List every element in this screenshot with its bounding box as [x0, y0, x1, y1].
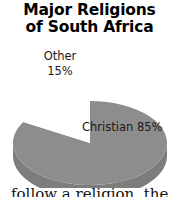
slice-label-christian: Christian 85% — [82, 120, 163, 134]
slice-label-other: Other 15% — [34, 49, 86, 79]
pie-graphic — [0, 38, 179, 188]
clipped-caption: follow a religion, the — [0, 186, 179, 197]
chart-title: Major Religions of South Africa — [0, 2, 179, 36]
chart-title-line-1: Major Religions — [23, 1, 155, 19]
pie-chart-figure: Major Religions of South Africa Other 15… — [0, 0, 179, 197]
clipped-caption-text: follow a religion, the — [11, 186, 179, 197]
pie-svg — [0, 38, 179, 188]
slice-label-other-percent: 15% — [34, 64, 86, 79]
slice-label-other-name: Other — [44, 49, 77, 63]
chart-title-line-2: of South Africa — [0, 19, 179, 36]
